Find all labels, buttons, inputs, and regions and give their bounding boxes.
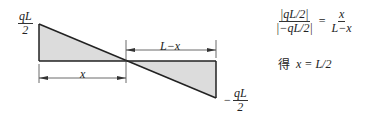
- top-value-label: qL 2: [18, 10, 33, 37]
- bottom-value-label: qL 2: [233, 87, 248, 114]
- ratio-equation: |qL/2| |−qL/2| = x L−x: [276, 8, 352, 35]
- x-dimension-label: x: [80, 68, 85, 80]
- bottom-sign: −: [224, 94, 231, 106]
- lx-dimension-label: L−x: [160, 40, 180, 52]
- result-equation: 得 x = L/2: [278, 55, 331, 73]
